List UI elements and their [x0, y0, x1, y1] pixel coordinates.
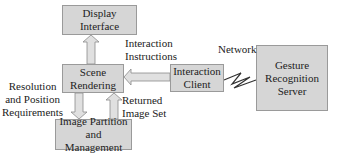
network-link-icon [224, 73, 256, 88]
display-interface-label: Display Interface [80, 7, 119, 33]
interaction-instructions-label: Interaction Instructions [125, 37, 177, 63]
gesture-server-node: Gesture Recognition Server [256, 45, 328, 111]
gesture-server-label: Gesture Recognition Server [265, 59, 319, 98]
scene-rendering-label: Scene Rendering [70, 66, 116, 92]
interaction-client-label: Interaction Client [173, 65, 221, 91]
resolution-requirements-label: Resolution and Position Requirements [2, 80, 63, 119]
returned-image-set-label: Returned Image Set [122, 94, 166, 120]
arrow-scene-to-display [83, 35, 99, 64]
scene-rendering-node: Scene Rendering [62, 64, 124, 93]
arrow-client-to-scene [124, 69, 170, 85]
network-label: Network [218, 43, 257, 56]
interaction-client-node: Interaction Client [170, 64, 224, 92]
display-interface-node: Display Interface [62, 5, 137, 35]
image-partition-node: Image Partition and Management [55, 119, 132, 150]
image-partition-label: Image Partition and Management [56, 115, 131, 154]
